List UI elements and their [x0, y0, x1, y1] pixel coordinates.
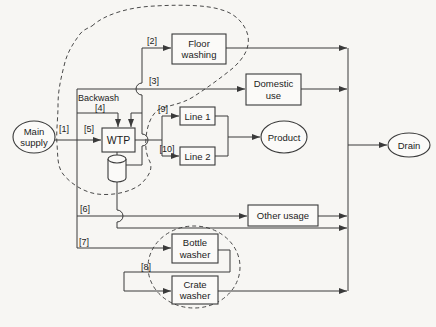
- crate-washer-label-1: Crate: [183, 279, 206, 290]
- stream-7-label: [7]: [79, 237, 89, 247]
- storage-tank-top: [108, 155, 126, 163]
- wtp-label: WTP: [107, 134, 130, 146]
- recycle-wtp-inlet-line: [131, 113, 142, 127]
- floor-washing-label-1: Floor: [188, 38, 210, 49]
- line1-outlet-line: [215, 116, 228, 137]
- line2-outlet-line: [215, 137, 228, 156]
- other-usage-label: Other usage: [257, 210, 309, 221]
- floor-washing-label-2: washing: [181, 49, 217, 60]
- stream-8-label: [8]: [141, 262, 151, 272]
- domestic-use-label-1: Domestic: [254, 78, 294, 89]
- stream-6-label: [6]: [80, 204, 90, 214]
- bottle-washer-label-2: washer: [179, 249, 211, 260]
- stream-1-label: [1]: [59, 124, 69, 134]
- backwash-label: Backwash: [78, 93, 119, 103]
- stream-2-label: [2]: [147, 36, 157, 46]
- main-supply-label-2: supply: [20, 137, 48, 148]
- stream-5-label: [5]: [84, 124, 94, 134]
- stream-10-label: [10]: [159, 144, 174, 154]
- domestic-use-label-2: use: [266, 90, 281, 101]
- stream-4-label: [4]: [95, 103, 105, 113]
- product-label: Product: [268, 132, 301, 143]
- stream-3-label: [3]: [149, 76, 159, 86]
- drain-label: Drain: [398, 140, 421, 151]
- diagram-svg: Main supply WTP Floor washing Domestic u…: [0, 0, 436, 327]
- crate-washer-label-2: washer: [179, 290, 211, 301]
- main-supply-label-1: Main: [24, 126, 45, 137]
- line-1-label: Line 1: [185, 111, 211, 122]
- stream-9-label: [9]: [158, 104, 168, 114]
- line-2-label: Line 2: [185, 151, 211, 162]
- flow-diagram: Main supply WTP Floor washing Domestic u…: [0, 0, 436, 327]
- bottle-washer-label-1: Bottle: [183, 237, 207, 248]
